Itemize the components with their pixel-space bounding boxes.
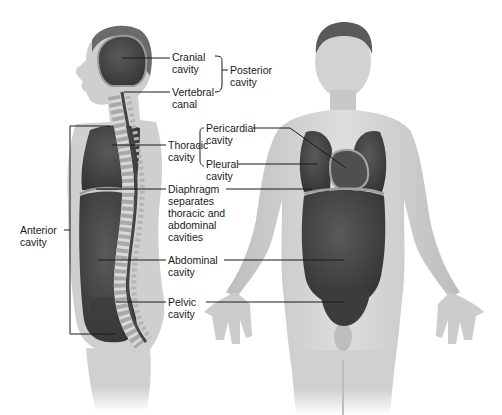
anatomy-illustration	[0, 0, 502, 415]
label-abdominal-cavity: Abdominal cavity	[168, 254, 218, 278]
lateral-figure	[67, 26, 164, 412]
label-diaphragm: Diaphragm separates thoracic and abdomin…	[168, 183, 225, 243]
label-vertebral-canal: Vertebral canal	[172, 86, 214, 110]
label-posterior-cavity: Posterior cavity	[230, 64, 272, 88]
body-cavities-diagram: Cranial cavity Vertebral canal Posterior…	[0, 0, 502, 415]
label-pericardial-cavity: Pericardial cavity	[206, 122, 256, 146]
label-anterior-cavity: Anterior cavity	[20, 224, 57, 248]
label-pelvic-cavity: Pelvic cavity	[168, 296, 196, 320]
label-cranial-cavity: Cranial cavity	[172, 51, 205, 75]
label-pleural-cavity: Pleural cavity	[206, 158, 239, 182]
label-thoracic-cavity: Thoracic cavity	[168, 139, 208, 163]
